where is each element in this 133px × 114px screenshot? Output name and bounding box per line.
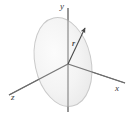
axis-label-z: z [11, 93, 15, 102]
figure-canvas [0, 0, 133, 114]
math-figure-3d-disk: y x z r [0, 0, 133, 114]
disk-group [26, 12, 99, 112]
tilted-circular-disk [26, 12, 99, 112]
axis-label-x: x [115, 84, 119, 93]
axis-label-y: y [60, 2, 64, 11]
vector-label-r: r [72, 40, 75, 48]
